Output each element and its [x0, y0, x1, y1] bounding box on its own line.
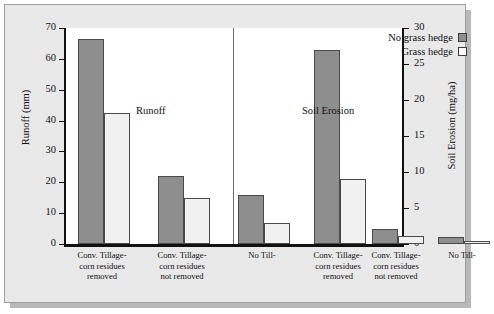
y-axis-left-tick-label: 30 [30, 145, 56, 155]
legend-label-grass-hedge: Grass hedge [401, 46, 453, 57]
y-axis-left-tick [59, 244, 64, 245]
legend-swatch-filled-icon [458, 33, 467, 42]
y-axis-left-tick-label: 60 [30, 53, 56, 63]
legend-item-grass-hedge: Grass hedge [401, 46, 467, 57]
x-axis-category-label-line: Conv. Tillage- [144, 250, 220, 261]
bar [398, 236, 424, 244]
x-axis-category-label-line: not removed [144, 271, 220, 282]
x-axis-category-label-line: No Till- [224, 250, 300, 261]
y-axis-right-tick [404, 172, 409, 173]
y-axis-right-tick-label: 30 [414, 22, 438, 32]
bar [158, 176, 184, 244]
bar [372, 229, 398, 244]
y-axis-left-tick [59, 213, 64, 214]
x-axis-category-label-line: corn residues [144, 261, 220, 272]
y-axis-left-tick-label: 0 [30, 238, 56, 248]
y-axis-left-title: Runoff (mm) [20, 53, 31, 183]
bar [78, 39, 104, 244]
x-axis-category-label-line: No Till- [424, 250, 494, 261]
bar [184, 198, 210, 244]
y-axis-left-tick-label: 70 [30, 22, 56, 32]
y-axis-right-tick-label: 25 [414, 58, 438, 68]
y-axis-left-title-wrap: Runoff (mm) [18, 0, 32, 245]
y-axis-right-tick [404, 136, 409, 137]
y-axis-right-tick-label: 20 [414, 94, 438, 104]
y-axis-left-tick-label: 50 [30, 84, 56, 94]
x-axis-category-label-line: removed [64, 271, 140, 282]
y-axis-right-title: Soil Erosion (mg/ha) [446, 61, 457, 191]
legend-swatch-hollow-icon [458, 47, 467, 56]
legend-label-no-grass-hedge: No grass hedge [388, 32, 453, 43]
bar [464, 241, 490, 244]
y-axis-left-tick-label: 20 [30, 176, 56, 186]
y-axis-right-tick [404, 64, 409, 65]
y-axis-left-tick [59, 151, 64, 152]
y-axis-right-tick-label: 10 [414, 166, 438, 176]
bar [264, 223, 290, 244]
x-axis-category-label-line: Conv. Tillage- [358, 250, 434, 261]
x-axis-category-label: No Till- [224, 250, 300, 261]
panel-title-runoff: Runoff [136, 105, 166, 116]
y-axis-left-tick [59, 90, 64, 91]
y-axis-right-tick [404, 208, 409, 209]
y-axis-right-tick [404, 244, 409, 245]
y-axis-right-tick-label: 15 [414, 130, 438, 140]
x-axis-category-labels: Conv. Tillage-corn residuesremovedConv. … [64, 250, 404, 300]
x-axis-category-label-line: corn residues [64, 261, 140, 272]
y-axis-right-tick [404, 100, 409, 101]
y-axis-left-tick [59, 121, 64, 122]
x-axis-category-label-line: not removed [358, 271, 434, 282]
bar [314, 50, 340, 244]
bar [340, 179, 366, 244]
y-axis-left-tick [59, 28, 64, 29]
x-axis-category-label: Conv. Tillage-corn residuesnot removed [144, 250, 220, 282]
y-axis-right-tick-label: 5 [414, 202, 438, 212]
bars-container [66, 28, 402, 244]
y-axis-left-tick-label: 40 [30, 115, 56, 125]
bar [438, 237, 464, 244]
x-axis-category-label: No Till- [424, 250, 494, 261]
x-axis-category-label: Conv. Tillage-corn residuesremoved [64, 250, 140, 282]
panel-title-soil-erosion: Soil Erosion [302, 105, 354, 116]
bar [238, 195, 264, 244]
y-axis-left-tick-label: 10 [30, 207, 56, 217]
figure-shadow-bottom [10, 303, 471, 308]
bar [104, 113, 130, 244]
x-axis-category-label-line: Conv. Tillage- [64, 250, 140, 261]
legend-item-no-grass-hedge: No grass hedge [388, 32, 467, 43]
y-axis-right-tick [404, 28, 409, 29]
y-axis-left-tick [59, 59, 64, 60]
y-axis-left-tick [59, 182, 64, 183]
x-axis-category-label-line: corn residues [358, 261, 434, 272]
chart-legend: No grass hedge Grass hedge [388, 32, 467, 57]
x-axis-category-label: Conv. Tillage-corn residuesnot removed [358, 250, 434, 282]
